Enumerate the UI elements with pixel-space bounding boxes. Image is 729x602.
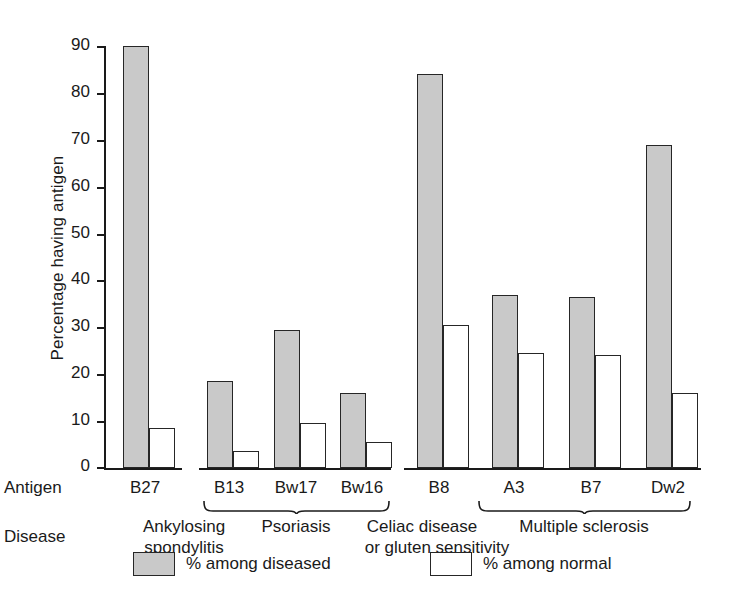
legend-item-diseased: % among diseased — [133, 552, 331, 576]
brace-psoriasis — [203, 500, 390, 514]
antigen-label-bw16: Bw16 — [322, 478, 402, 498]
legend-item-normal: % among normal — [430, 552, 612, 576]
y-tick-70: 70 — [97, 140, 105, 142]
plot-area: 90 80 70 60 50 40 30 20 10 0 — [104, 46, 701, 468]
disease-label-multiple-sclerosis: Multiple sclerosis — [481, 516, 687, 537]
y-tick-label-30: 30 — [71, 316, 90, 336]
chart-legend: % among diseased % among normal — [0, 552, 729, 586]
disease-row-label: Disease — [4, 527, 65, 547]
y-tick-20: 20 — [97, 374, 105, 376]
bar-b27-normal — [149, 428, 175, 468]
y-axis-title: Percentage having antigen — [48, 108, 68, 408]
y-tick-label-20: 20 — [71, 363, 90, 383]
x-axis-segment-2 — [199, 468, 391, 470]
bar-b13-normal — [233, 451, 259, 468]
y-tick-60: 60 — [97, 187, 105, 189]
antigen-row-label: Antigen — [4, 478, 62, 498]
antigen-label-dw2: Dw2 — [628, 478, 708, 498]
bar-dw2-diseased — [646, 145, 672, 468]
y-tick-40: 40 — [97, 280, 105, 282]
bar-b13-diseased — [207, 381, 233, 468]
y-tick-label-90: 90 — [71, 35, 90, 55]
y-tick-80: 80 — [97, 93, 105, 95]
antigen-label-a3: A3 — [474, 478, 554, 498]
bar-b8-diseased — [417, 74, 443, 468]
y-tick-90: 90 — [97, 46, 105, 48]
bar-b7-diseased — [569, 297, 595, 468]
y-axis-line — [104, 46, 106, 468]
antigen-label-b27: B27 — [105, 478, 185, 498]
antigen-label-b8: B8 — [399, 478, 479, 498]
y-tick-label-10: 10 — [71, 410, 90, 430]
x-axis-segment-1 — [104, 468, 182, 470]
bar-dw2-normal — [672, 393, 698, 468]
y-tick-label-80: 80 — [71, 82, 90, 102]
legend-swatch-diseased-icon — [133, 552, 175, 576]
antigen-label-b7: B7 — [551, 478, 631, 498]
y-tick-label-40: 40 — [71, 269, 90, 289]
bar-b7-normal — [595, 355, 621, 468]
y-tick-10: 10 — [97, 421, 105, 423]
bar-b27-diseased — [123, 46, 149, 468]
bar-b8-normal — [443, 325, 469, 468]
y-tick-label-60: 60 — [71, 176, 90, 196]
bar-bw16-normal — [366, 442, 392, 468]
bar-bw17-diseased — [274, 330, 300, 468]
bar-bw16-diseased — [340, 393, 366, 468]
y-tick-label-50: 50 — [71, 223, 90, 243]
y-tick-label-0: 0 — [81, 456, 90, 476]
legend-swatch-normal-icon — [430, 552, 472, 576]
legend-label-normal: % among normal — [483, 554, 612, 574]
bar-bw17-normal — [300, 423, 326, 468]
y-tick-label-70: 70 — [71, 129, 90, 149]
legend-label-diseased: % among diseased — [186, 554, 331, 574]
bar-a3-normal — [518, 353, 544, 468]
y-tick-50: 50 — [97, 234, 105, 236]
y-tick-30: 30 — [97, 327, 105, 329]
bar-a3-diseased — [492, 295, 518, 468]
brace-multiple-sclerosis — [478, 500, 691, 514]
x-axis-segment-3 — [404, 468, 701, 470]
chart-figure: Percentage having antigen 90 80 70 60 50… — [0, 0, 729, 602]
